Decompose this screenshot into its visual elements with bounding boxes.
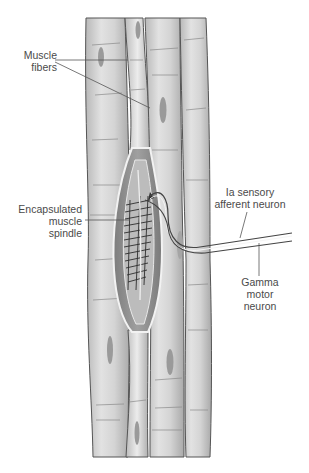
leader-ia-afferent: [240, 212, 247, 238]
label-muscle-fibers: Muscle fibers: [10, 49, 57, 73]
muscle-fiber-4: [180, 18, 212, 457]
label-encapsulated-muscle-spindle: Encapsulated muscle spindle: [4, 203, 82, 239]
label-ia-sensory-afferent-neuron: Ia sensory afferent neuron: [205, 186, 295, 210]
label-gamma-motor-neuron: Gamma motor neuron: [235, 276, 285, 312]
